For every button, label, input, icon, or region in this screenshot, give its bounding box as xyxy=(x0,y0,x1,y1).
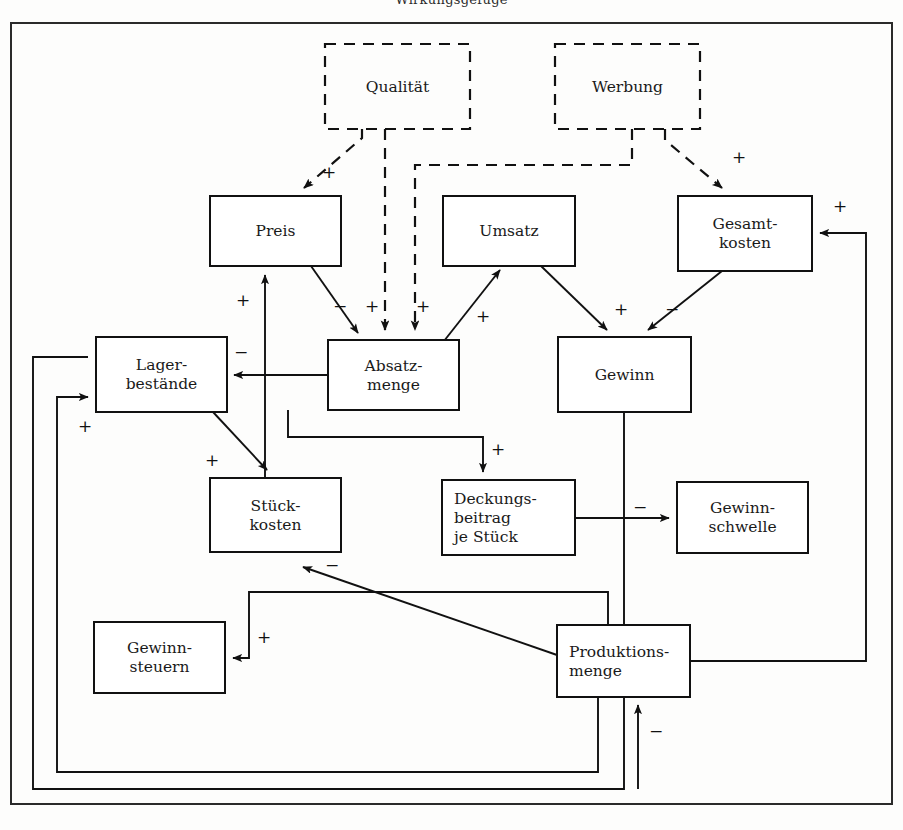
sign-gewinn-produktion: − xyxy=(649,721,663,741)
edge-produktionsmenge-gewinnsteuern xyxy=(233,592,608,658)
node-label-gewinnsteuern: steuern xyxy=(130,658,190,676)
sign-qualitaet-absatz: + xyxy=(365,296,379,316)
node-absatzmenge[interactable]: Absatz-menge xyxy=(328,340,459,410)
node-label-umsatz: Umsatz xyxy=(479,222,538,240)
node-label-werbung: Werbung xyxy=(592,78,663,96)
edge-produktionsmenge-gesamtkosten xyxy=(690,233,866,661)
sign-produktion-steuern: + xyxy=(257,627,271,647)
sign-absatz-umsatz: + xyxy=(476,306,490,326)
node-deckungsbeitrag[interactable]: Deckungs-beitragje Stück xyxy=(442,480,575,555)
sign-stueck-preis: + xyxy=(236,290,250,310)
node-gewinn[interactable]: Gewinn xyxy=(558,337,691,412)
edge-produktionsmenge-stueckkosten xyxy=(303,567,557,655)
node-label-qualitaet: Qualität xyxy=(366,78,430,96)
sign-absatz-lager: − xyxy=(234,342,248,362)
node-label-stueckkosten: kosten xyxy=(249,516,301,534)
node-label-deckungsbeitrag: beitrag xyxy=(454,509,511,527)
node-produktionsmenge[interactable]: Produktions-menge xyxy=(557,625,690,697)
node-label-gesamtkosten: kosten xyxy=(719,234,771,252)
sign-preis-absatz: − xyxy=(333,296,347,316)
edge-werbung-gesamtkosten xyxy=(665,129,722,188)
node-stueckkosten[interactable]: Stück-kosten xyxy=(210,478,341,552)
sign-produktion-lager: + xyxy=(78,416,92,436)
node-werbung[interactable]: Werbung xyxy=(555,44,700,129)
nodes-layer: QualitätWerbungPreisUmsatzGesamt-kostenA… xyxy=(94,44,812,697)
node-gewinnschwelle[interactable]: Gewinn-schwelle xyxy=(677,482,808,553)
sign-absatz-deckung: + xyxy=(491,439,505,459)
causal-loop-diagram: QualitätWerbungPreisUmsatzGesamt-kostenA… xyxy=(0,0,903,830)
node-preis[interactable]: Preis xyxy=(210,196,341,266)
node-label-gewinnschwelle: Gewinn- xyxy=(710,499,775,517)
diagram-page: Wirkungsgefüge xyxy=(0,0,903,830)
node-label-absatzmenge: menge xyxy=(367,376,420,394)
node-label-preis: Preis xyxy=(256,222,296,240)
edge-umsatz-gewinn xyxy=(541,266,607,330)
sign-produktion-gesamt: + xyxy=(833,196,847,216)
edge-gesamtkosten-gewinn xyxy=(648,271,722,330)
node-label-lagerbestaende: Lager- xyxy=(136,356,187,374)
node-label-produktionsmenge: Produktions- xyxy=(569,643,669,661)
sign-produktion-stueck: − xyxy=(325,555,339,575)
node-label-lagerbestaende: bestände xyxy=(126,375,198,393)
node-label-gewinnschwelle: schwelle xyxy=(708,518,776,536)
node-label-gewinnsteuern: Gewinn- xyxy=(127,639,192,657)
node-label-gesamtkosten: Gesamt- xyxy=(713,215,778,233)
node-label-stueckkosten: Stück- xyxy=(251,497,301,515)
edge-lagerbestaende-stueckkosten xyxy=(213,412,267,470)
edge-absatzmenge-deckungsbeitrag xyxy=(288,410,483,472)
sign-deckung-schwelle: − xyxy=(633,497,647,517)
node-qualitaet[interactable]: Qualität xyxy=(325,44,470,129)
node-gesamtkosten[interactable]: Gesamt-kosten xyxy=(678,196,812,271)
edge-produktionsmenge-lagerbestaende xyxy=(57,397,598,772)
node-lagerbestaende[interactable]: Lager-bestände xyxy=(96,337,227,412)
node-label-gewinn: Gewinn xyxy=(595,366,655,384)
edge-absatzmenge-umsatz xyxy=(444,270,500,341)
sign-umsatz-gewinn: + xyxy=(614,299,628,319)
node-label-deckungsbeitrag: Deckungs- xyxy=(454,490,537,508)
sign-gesamtkosten-gewinn: − xyxy=(665,299,679,319)
sign-werbung-gesamtkosten: + xyxy=(732,147,746,167)
node-label-produktionsmenge: menge xyxy=(569,662,622,680)
sign-lager-stueck: + xyxy=(205,450,219,470)
node-gewinnsteuern[interactable]: Gewinn-steuern xyxy=(94,622,225,693)
node-label-absatzmenge: Absatz- xyxy=(364,357,423,375)
sign-werbung-absatz: + xyxy=(416,296,430,316)
node-umsatz[interactable]: Umsatz xyxy=(443,196,575,266)
sign-qualitaet-preis: + xyxy=(322,162,336,182)
node-label-deckungsbeitrag: je Stück xyxy=(452,528,518,546)
